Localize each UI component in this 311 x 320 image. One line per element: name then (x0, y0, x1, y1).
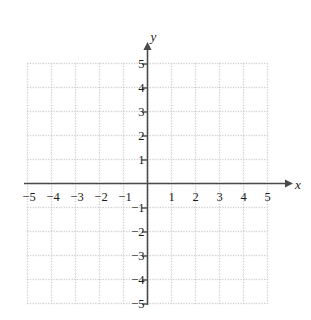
y-tick-label: −1 (131, 201, 144, 214)
coordinate-plane-graph: x y −5−4−3−2−112345 54321−1−2−3−4−5 (0, 0, 311, 320)
x-axis-line (24, 179, 293, 187)
y-axis-line (143, 42, 151, 305)
y-tick-label: −3 (131, 249, 144, 262)
x-tick-label: −1 (118, 191, 131, 204)
x-tick-label: 3 (216, 191, 222, 204)
y-tick-label: −4 (131, 273, 144, 286)
x-axis-arrowhead (285, 179, 293, 187)
y-tick-label: 3 (138, 105, 144, 118)
y-tick-label: 4 (138, 81, 144, 94)
x-tick-label: −4 (46, 191, 59, 204)
x-tick-label: 1 (168, 191, 174, 204)
x-tick-label: −2 (94, 191, 107, 204)
x-tick-label: 4 (240, 191, 246, 204)
x-axis-label: x (295, 178, 301, 191)
y-tick-label: 2 (138, 129, 144, 142)
y-tick-label: −2 (131, 225, 144, 238)
x-tick-label: 2 (192, 191, 198, 204)
x-tick-label: −5 (22, 191, 35, 204)
x-tick-label: −3 (70, 191, 83, 204)
y-tick-label: 5 (138, 57, 144, 70)
x-tick-label: 5 (264, 191, 270, 204)
y-axis-label: y (151, 30, 157, 43)
y-tick-label: 1 (138, 153, 144, 166)
plot-canvas (0, 0, 311, 320)
y-tick-label: −5 (131, 297, 144, 310)
